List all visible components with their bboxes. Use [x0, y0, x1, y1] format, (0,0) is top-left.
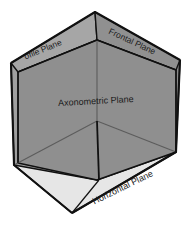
axonometric-diagram: ofile Plane Frontal Plane Axonometric Pl… [0, 0, 192, 227]
diagram-canvas: ofile Plane Frontal Plane Axonometric Pl… [0, 0, 192, 227]
